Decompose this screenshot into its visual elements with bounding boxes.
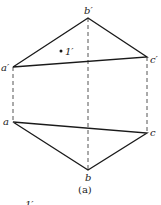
label-b: b — [85, 172, 91, 183]
label-a: a — [3, 116, 9, 127]
label-a-prime: a′ — [1, 62, 10, 73]
front-view-triangle — [13, 18, 147, 67]
partial-label-1-prime: 1′ — [25, 199, 34, 205]
label-b-prime: b′ — [84, 5, 93, 16]
label-c-prime: c′ — [150, 54, 159, 65]
point-1-prime — [60, 50, 63, 53]
top-view-triangle — [13, 122, 147, 170]
figure-caption: (a) — [78, 184, 92, 195]
label-c: c — [150, 127, 156, 138]
projection-diagram: b′ a′ c′ 1′ a c b (a) 1′ — [0, 0, 161, 205]
label-1-prime: 1′ — [65, 46, 74, 57]
